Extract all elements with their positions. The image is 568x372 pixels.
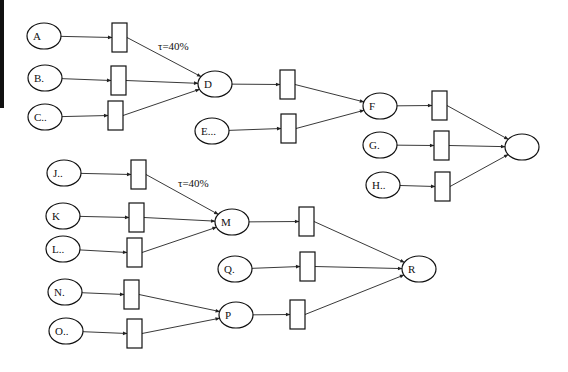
- place-label: K: [52, 210, 60, 222]
- arc-tG-to-OUT: [449, 146, 505, 147]
- place-label: G.: [369, 139, 380, 151]
- arc-C-to-tC: [62, 116, 108, 117]
- place-OUT: [505, 134, 539, 160]
- petri-net-diagram: AB.C..DE...FG.H..J..KL..MN.O..PQ.R τ=40%…: [0, 0, 568, 372]
- place-label: B.: [34, 72, 44, 84]
- place-A: A: [27, 23, 61, 49]
- place-label: F: [369, 100, 375, 112]
- place-label: C..: [34, 111, 47, 123]
- place-label: Q.: [224, 263, 235, 275]
- arc-J-to-tJ: [81, 173, 131, 174]
- transition-tA: [112, 23, 127, 52]
- place-label: A: [33, 30, 41, 42]
- transition-tK: [129, 203, 144, 232]
- place-label: L..: [52, 243, 64, 255]
- arc-tO-to-P: [142, 318, 220, 333]
- arc-tC-to-D: [123, 89, 199, 115]
- transition-tG: [434, 131, 449, 160]
- annotations-layer: τ=40%τ=40%: [158, 40, 209, 189]
- transition-tL: [127, 238, 142, 267]
- place-label: D: [204, 78, 212, 90]
- arc-E-to-tE: [229, 129, 281, 131]
- arc-tF-to-OUT: [447, 106, 508, 140]
- arc-tN-to-P: [139, 295, 220, 312]
- transition-tE: [281, 114, 296, 143]
- transition-tN: [124, 280, 139, 309]
- arc-N-to-tN: [82, 293, 124, 295]
- place-G: G.: [363, 132, 397, 158]
- arc-L-to-tL: [80, 250, 127, 253]
- transition-tJ: [131, 160, 146, 189]
- place-label: E...: [201, 125, 216, 137]
- transition-tQ: [300, 252, 315, 281]
- place-L: L..: [46, 236, 80, 262]
- place-C: C..: [28, 104, 62, 130]
- arc-H-to-tH: [400, 185, 435, 186]
- place-P: P: [219, 302, 253, 328]
- arc-tL-to-M: [142, 227, 216, 252]
- place-M: M: [215, 209, 249, 235]
- arc-tP-to-R: [305, 275, 404, 314]
- arc-Q-to-tQ: [252, 267, 300, 269]
- place-Q: Q.: [218, 256, 252, 282]
- place-label: O..: [55, 325, 69, 337]
- transition-tP: [290, 300, 305, 329]
- transition-tO: [127, 319, 142, 348]
- transition-tM: [299, 207, 314, 236]
- transition-tB: [111, 66, 126, 95]
- arc-B-to-tB: [62, 79, 111, 81]
- transition-tF: [432, 91, 447, 120]
- edge-bar: [0, 0, 4, 108]
- transition-tC: [108, 101, 123, 130]
- threshold-annotation: τ=40%: [158, 40, 189, 52]
- place-K: K: [46, 203, 80, 229]
- place-O: O..: [49, 318, 83, 344]
- threshold-annotation: τ=40%: [178, 177, 209, 189]
- arc-tB-to-D: [126, 81, 198, 84]
- arc-tH-to-OUT: [450, 155, 508, 187]
- transition-tD: [280, 70, 295, 99]
- transition-tH: [435, 172, 450, 201]
- place-B: B.: [28, 65, 62, 91]
- place-ellipse: [505, 134, 539, 160]
- place-label: N.: [54, 286, 65, 298]
- place-H: H..: [366, 172, 400, 198]
- arc-A-to-tA: [61, 36, 112, 37]
- arc-tD-to-F: [295, 85, 364, 102]
- place-label: J..: [53, 167, 63, 179]
- arc-tQ-to-R: [315, 267, 402, 269]
- place-R: R: [402, 256, 436, 282]
- place-label: M: [221, 216, 231, 228]
- place-J: J..: [47, 160, 81, 186]
- place-E: E...: [195, 118, 229, 144]
- place-D: D: [198, 71, 232, 97]
- place-label: P: [225, 309, 231, 321]
- arc-tM-to-R: [314, 222, 404, 263]
- place-F: F: [363, 93, 397, 119]
- place-label: R: [408, 263, 416, 275]
- arc-K-to-tK: [80, 216, 129, 217]
- arc-O-to-tO: [83, 332, 127, 334]
- arc-tK-to-M: [144, 218, 215, 222]
- place-label: H..: [372, 179, 386, 191]
- place-N: N.: [48, 279, 82, 305]
- arc-tE-to-F: [296, 110, 364, 128]
